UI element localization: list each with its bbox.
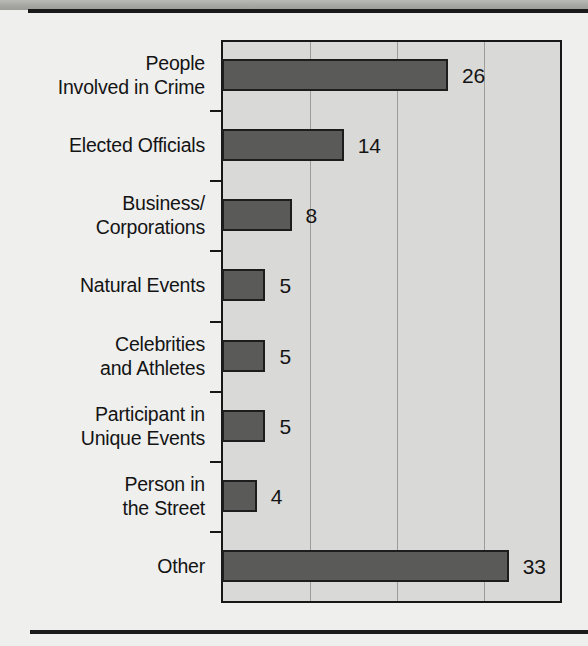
bar-value-label: 26	[462, 65, 485, 86]
bar	[222, 410, 265, 442]
category-label: Natural Events	[0, 273, 205, 297]
bar-value-label: 5	[279, 346, 290, 367]
axis-tick	[210, 391, 222, 393]
bar-value-label: 5	[279, 416, 290, 437]
bar-value-label: 8	[306, 205, 317, 226]
bar-value-label: 5	[279, 275, 290, 296]
chart-rows: People Involved in Crime26Elected Offici…	[0, 40, 588, 603]
bar	[222, 550, 509, 582]
bar	[222, 129, 344, 161]
category-label: People Involved in Crime	[0, 51, 205, 99]
bar	[222, 480, 257, 512]
bar	[222, 340, 265, 372]
bar-value-label: 14	[358, 135, 381, 156]
category-label: Business/ Corporations	[0, 191, 205, 239]
axis-tick	[210, 250, 222, 252]
category-label: Other	[0, 554, 205, 578]
bar	[222, 59, 448, 91]
category-label: Person in the Street	[0, 472, 205, 520]
bar	[222, 199, 292, 231]
bar-value-label: 4	[271, 486, 282, 507]
axis-tick	[210, 461, 222, 463]
category-label: Participant in Unique Events	[0, 402, 205, 450]
axis-tick	[210, 110, 222, 112]
category-label: Celebrities and Athletes	[0, 332, 205, 380]
axis-tick	[210, 531, 222, 533]
axis-tick	[210, 321, 222, 323]
category-label: Elected Officials	[0, 133, 205, 157]
axis-tick	[210, 180, 222, 182]
bar-value-label: 33	[523, 556, 546, 577]
bar-chart: People Involved in Crime26Elected Offici…	[0, 0, 588, 646]
bar	[222, 269, 265, 301]
